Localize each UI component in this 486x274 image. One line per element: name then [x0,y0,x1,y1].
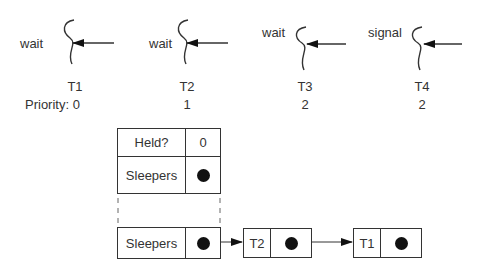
queue-head-label: Sleepers [118,228,186,258]
held-label: Held? [118,129,186,157]
sleepers-pointer [186,157,220,193]
pointer-dot-icon [197,169,210,182]
thread-name: T4 [407,79,437,94]
thread-name: T1 [60,79,90,94]
queue-node: T2 [243,228,312,258]
lock-struct: Held? 0 Sleepers [117,128,221,194]
thread-t1-squiggle-icon [64,20,114,64]
pointer-dot-icon [285,237,298,250]
held-value: 0 [186,129,220,157]
queue-node-label: T1 [354,229,381,257]
thread-name: T3 [290,79,320,94]
pointer-dot-icon [197,237,210,250]
thread-t3-squiggle-icon [296,27,346,70]
pointer-dot-icon [395,237,408,250]
priority-value: 1 [172,97,202,112]
queue-node-label: T2 [244,229,271,257]
thread-t2-squiggle-icon [178,20,228,64]
thread-t4-squiggle-icon [412,27,462,70]
thread-op-label: wait [20,36,43,51]
thread-name: T2 [172,79,202,94]
queue-node-pointer [271,229,311,257]
priority-value: 2 [407,97,437,112]
thread-op-label: wait [262,25,285,40]
queue-node: T1 [353,228,422,258]
sleepers-label: Sleepers [118,157,186,193]
thread-op-label: wait [149,36,172,51]
priority-label: Priority: 0 [25,97,80,112]
queue-head-pointer [186,228,220,258]
thread-op-label: signal [368,25,402,40]
queue-head: Sleepers [117,227,221,259]
queue-node-pointer [381,229,421,257]
priority-value: 2 [290,97,320,112]
